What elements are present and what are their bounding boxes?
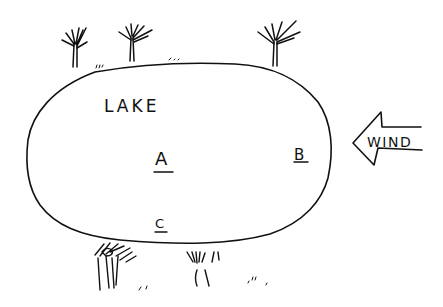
tree-north-2-icon: [119, 24, 152, 61]
tree-north-3-icon: [258, 21, 300, 66]
point-c: C: [155, 216, 167, 232]
wind-arrow-icon: WIND: [353, 112, 422, 165]
tree-south-1-icon: [95, 243, 136, 290]
point-a-label: A: [155, 148, 168, 169]
lake-outline: [27, 63, 331, 243]
wind-label: WIND: [367, 134, 412, 150]
south-grass-marks: [139, 277, 267, 290]
point-b: B: [294, 146, 308, 164]
point-c-label: C: [155, 216, 164, 231]
tree-south-2-icon: [187, 252, 219, 286]
point-a: A: [154, 148, 173, 172]
lake-label: LAKE: [104, 96, 159, 116]
tree-north-1-icon: [62, 28, 87, 67]
lake-diagram: LAKE A B C WIND: [0, 0, 443, 307]
